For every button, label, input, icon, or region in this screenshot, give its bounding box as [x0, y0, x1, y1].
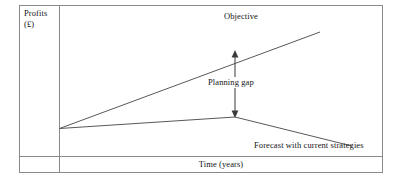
arrowhead-up-icon [232, 50, 239, 58]
y-axis-label: Profits (£) [24, 8, 58, 29]
planning-gap-figure: Profits (£) Objective Planning gap Forec… [0, 0, 400, 181]
objective-trend-line [60, 32, 321, 129]
planning-gap-label: Planning gap [206, 77, 256, 88]
y-axis-label-line1: Profits [24, 8, 47, 18]
x-axis-label: Time (years) [0, 159, 400, 170]
forecast-label: Forecast with current strategies [254, 140, 364, 151]
diagram-canvas [0, 0, 400, 181]
y-axis-label-line2: (£) [24, 19, 34, 29]
objective-label: Objective [224, 11, 258, 22]
